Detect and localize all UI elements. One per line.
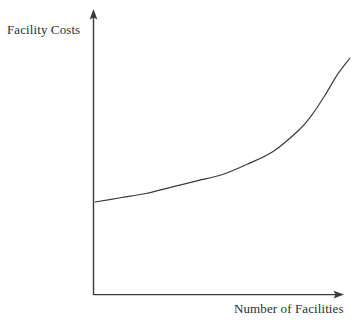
cost-curve-line xyxy=(95,58,350,202)
y-axis-label: Facility Costs xyxy=(7,23,80,36)
x-axis-label: Number of Facilities xyxy=(234,302,344,315)
chart-container: Facility Costs Number of Facilities xyxy=(0,0,361,322)
chart-plot-area xyxy=(0,0,361,322)
